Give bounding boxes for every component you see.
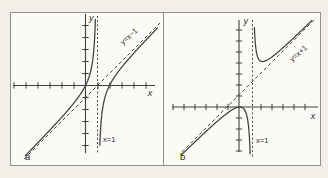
panel-b-generated	[172, 18, 318, 157]
panel-b-oblique-asymptote-label: y=x+1	[288, 43, 309, 63]
panel-a-vertical-asymptote-label: x=1	[103, 135, 115, 144]
panel-b-letter: b	[180, 151, 185, 162]
curve-branch-left	[181, 107, 250, 155]
panel-a-generated	[13, 14, 160, 159]
curve-branch-right	[100, 28, 158, 146]
panel-a-x-axis-label: x	[147, 88, 153, 98]
panel-b-y-axis-label: y	[243, 16, 249, 26]
graphs-svg: y x y=x−1 x=1 a y x y=x+1 x=1 b	[0, 0, 328, 178]
curve-branch-right	[254, 20, 312, 61]
panel-b-x-axis-label: x	[310, 111, 316, 121]
panel-a-oblique-asymptote-label: y=x−1	[118, 26, 139, 46]
panel-a: y x y=x−1 x=1 a	[13, 13, 160, 162]
oblique-asymptote	[24, 23, 160, 159]
panel-a-y-axis-label: y	[88, 13, 94, 23]
panel-b-vertical-asymptote-label: x=1	[256, 136, 268, 145]
panel-b: y x y=x+1 x=1 b	[172, 16, 318, 162]
curve-branch-left	[25, 19, 95, 156]
panel-a-letter: a	[25, 151, 31, 162]
figure-scan: { "figure": { "panels": [ { "id": "a", "…	[0, 0, 328, 178]
